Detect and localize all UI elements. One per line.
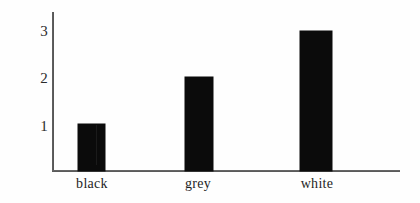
y-axis-line (52, 12, 54, 172)
bar-white (300, 31, 332, 171)
bar-chart-figure: 3 2 1 black grey white (0, 0, 420, 203)
y-tick-label-3: 3 (14, 24, 48, 39)
y-tick-label-2: 2 (14, 71, 48, 86)
plot-area: 3 2 1 black grey white (0, 0, 420, 203)
y-tick-label-1: 1 (14, 119, 48, 134)
bar-black (78, 124, 105, 171)
x-tick-label-white: white (286, 176, 348, 192)
bar-grey (185, 77, 213, 171)
x-tick-label-black: black (62, 176, 122, 192)
y-axis-tick-labels: 3 2 1 (8, 0, 48, 203)
x-tick-label-grey: grey (168, 176, 228, 192)
